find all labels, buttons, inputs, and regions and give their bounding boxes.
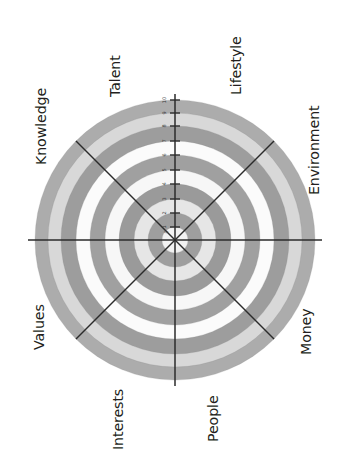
axis-spokes <box>28 94 322 386</box>
figure-canvas: 0 1 2 3 4 5 6 7 8 9 10 Talent Knowledge … <box>0 0 341 465</box>
axis-label-knowledge: Knowledge <box>33 88 49 165</box>
tick-label-8: 8 <box>161 124 167 127</box>
tick-label-9: 9 <box>161 111 167 114</box>
axis-label-environment: Environment <box>306 106 322 196</box>
tick-label-4: 4 <box>161 182 167 185</box>
tick-label-zero: 0 <box>163 230 169 233</box>
axis-label-values: Values <box>31 304 47 350</box>
axis-label-lifestyle: Lifestyle <box>228 36 244 95</box>
tick-label-3: 3 <box>161 197 167 200</box>
wheel-of-life-chart: 0 1 2 3 4 5 6 7 8 9 10 <box>0 0 341 465</box>
tick-label-7: 7 <box>161 139 167 142</box>
tick-label-2: 2 <box>161 211 167 214</box>
tick-label-5: 5 <box>161 168 167 171</box>
axis-label-money: Money <box>298 308 314 355</box>
axis-label-interests: Interests <box>110 389 126 450</box>
polar-chart-svg: 0 1 2 3 4 5 6 7 8 9 10 <box>0 0 341 465</box>
axis-label-talent: Talent <box>107 55 123 97</box>
tick-label-6: 6 <box>161 153 167 156</box>
tick-label-10: 10 <box>161 97 167 103</box>
tick-label-1: 1 <box>161 225 167 228</box>
axis-label-people: People <box>205 395 221 442</box>
